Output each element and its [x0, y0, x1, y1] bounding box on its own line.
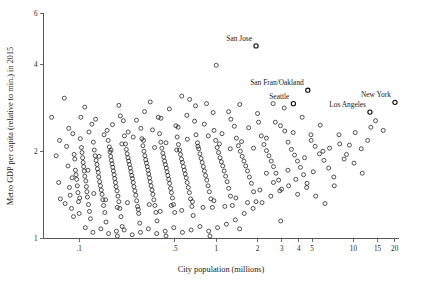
data-point — [54, 154, 58, 158]
data-point — [164, 234, 168, 238]
data-point — [121, 119, 125, 123]
data-point — [194, 104, 198, 108]
data-point — [179, 152, 183, 156]
data-point — [109, 154, 113, 158]
data-point — [165, 170, 169, 174]
x-tick-label: 5 — [310, 245, 314, 253]
data-point — [147, 172, 151, 176]
data-point — [125, 152, 129, 156]
data-point — [74, 173, 78, 177]
x-axis-ticks: .1.512345101520 — [76, 239, 398, 254]
data-point — [169, 191, 173, 195]
data-point — [210, 205, 214, 209]
data-point — [91, 230, 95, 234]
data-point — [217, 142, 221, 146]
data-point — [359, 147, 363, 151]
data-point — [70, 176, 74, 180]
data-point — [293, 153, 297, 157]
data-point — [100, 192, 104, 196]
data-point — [79, 146, 83, 150]
data-point — [233, 218, 237, 222]
data-point — [366, 138, 370, 142]
data-point — [314, 194, 318, 198]
data-point — [113, 177, 117, 181]
data-point — [86, 168, 90, 172]
data-point — [218, 156, 222, 160]
data-point — [287, 184, 291, 188]
data-point — [264, 136, 268, 140]
data-point — [228, 147, 232, 151]
data-point — [115, 189, 119, 193]
x-tick-label: 2 — [256, 245, 260, 253]
data-point — [259, 134, 263, 138]
data-point — [185, 137, 189, 141]
data-point — [116, 194, 120, 198]
data-point — [85, 195, 89, 199]
y-tick-label: 6 — [34, 10, 38, 18]
data-point — [264, 171, 268, 175]
data-point — [62, 96, 66, 100]
data-point — [85, 190, 89, 194]
data-point — [207, 190, 211, 194]
data-point — [360, 171, 364, 175]
data-point — [247, 126, 251, 130]
data-point — [117, 103, 121, 107]
data-point — [300, 115, 304, 119]
data-point — [92, 148, 96, 152]
data-point — [159, 140, 163, 144]
x-axis-title: City population (millions) — [178, 265, 265, 274]
data-point — [135, 199, 139, 203]
data-point — [180, 94, 184, 98]
data-point — [148, 100, 152, 104]
data-point — [158, 132, 162, 136]
data-point — [197, 147, 201, 151]
data-point — [273, 120, 277, 124]
data-point — [126, 130, 130, 134]
data-point — [286, 168, 290, 172]
data-point — [106, 138, 110, 142]
data-point — [151, 128, 155, 132]
data-point — [87, 209, 91, 213]
data-point — [137, 211, 141, 215]
data-point — [240, 140, 244, 144]
data-point — [83, 174, 87, 178]
data-point-labeled — [254, 44, 258, 48]
data-point — [246, 201, 250, 205]
data-point — [305, 185, 309, 189]
data-point — [222, 169, 226, 173]
data-point — [96, 170, 100, 174]
data-point — [180, 230, 184, 234]
data-point — [167, 177, 171, 181]
data-point — [246, 169, 250, 173]
data-point — [219, 160, 223, 164]
data-point — [172, 226, 176, 230]
data-point — [58, 197, 62, 201]
city-label: San Jose — [226, 34, 252, 43]
data-point — [296, 192, 300, 196]
data-point — [78, 137, 82, 141]
data-point — [205, 102, 209, 106]
data-point — [166, 173, 170, 177]
data-point — [234, 196, 238, 200]
figure-container: 1246 .1.512345101520 San JoseSan Fran/Oa… — [0, 0, 423, 285]
data-point — [71, 132, 75, 136]
data-point — [155, 232, 159, 236]
data-point — [170, 196, 174, 200]
data-point — [158, 209, 162, 213]
data-point — [71, 215, 75, 219]
data-point — [238, 103, 242, 107]
data-point — [185, 113, 189, 117]
data-point — [112, 173, 116, 177]
data-point — [309, 138, 313, 142]
data-point — [105, 128, 109, 132]
data-points — [50, 63, 386, 238]
data-point — [81, 156, 85, 160]
data-point — [272, 165, 276, 169]
data-point — [73, 157, 77, 161]
data-point — [190, 204, 194, 208]
data-point — [153, 203, 157, 207]
data-point — [113, 181, 117, 185]
data-point — [184, 176, 188, 180]
data-point — [63, 202, 67, 206]
data-point — [102, 133, 106, 137]
